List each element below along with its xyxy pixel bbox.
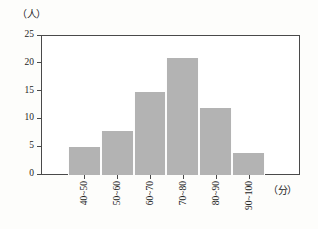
bar — [68, 147, 101, 175]
y-tick-mark — [37, 90, 41, 91]
bar — [199, 108, 232, 175]
histogram-chart: （人） 0510152025 40~5050~6060~7070~8080~90… — [0, 0, 318, 229]
x-axis-tick: 90~100 — [232, 175, 265, 229]
x-axis: 40~5050~6060~7070~8080~9090~100 — [42, 175, 299, 229]
x-axis-tick: 50~60 — [101, 175, 134, 229]
y-tick-mark — [37, 35, 41, 36]
x-axis-tick: 40~50 — [68, 175, 101, 229]
x-tick-label: 70~80 — [178, 181, 188, 205]
x-tick-label: 40~50 — [79, 181, 89, 205]
x-tick-mark — [249, 175, 250, 179]
x-tick-mark — [216, 175, 217, 179]
y-tick-label: 25 — [25, 28, 35, 41]
x-axis-tick: 60~70 — [134, 175, 167, 229]
y-tick-label: 10 — [25, 111, 35, 124]
y-axis-unit-label: （人） — [17, 6, 46, 21]
y-tick-mark — [37, 62, 41, 63]
bar-group — [68, 36, 265, 175]
x-tick-mark — [117, 175, 118, 179]
y-tick-mark — [37, 118, 41, 119]
x-tick-label: 50~60 — [112, 181, 122, 205]
x-tick-mark — [150, 175, 151, 179]
x-tick-label: 60~70 — [145, 181, 155, 205]
y-axis: 0510152025 — [0, 35, 41, 175]
x-tick-label: 80~90 — [211, 181, 221, 205]
x-tick-label: 90~100 — [244, 181, 254, 210]
x-tick-mark — [183, 175, 184, 179]
bar — [101, 131, 134, 175]
x-axis-tick: 70~80 — [166, 175, 199, 229]
bar — [166, 58, 199, 175]
y-tick-label: 0 — [29, 167, 34, 180]
bar — [232, 153, 265, 175]
x-tick-group: 40~5050~6060~7070~8080~9090~100 — [68, 175, 265, 229]
x-tick-mark — [84, 175, 85, 179]
y-tick-label: 5 — [29, 139, 34, 152]
y-tick-label: 15 — [25, 84, 35, 97]
x-axis-tick: 80~90 — [199, 175, 232, 229]
y-tick-mark — [37, 146, 41, 147]
plot-area — [42, 36, 299, 175]
x-axis-unit-label: （分） — [268, 182, 297, 197]
y-tick-label: 20 — [25, 56, 35, 69]
y-tick-mark — [37, 174, 41, 175]
bar — [134, 92, 167, 175]
